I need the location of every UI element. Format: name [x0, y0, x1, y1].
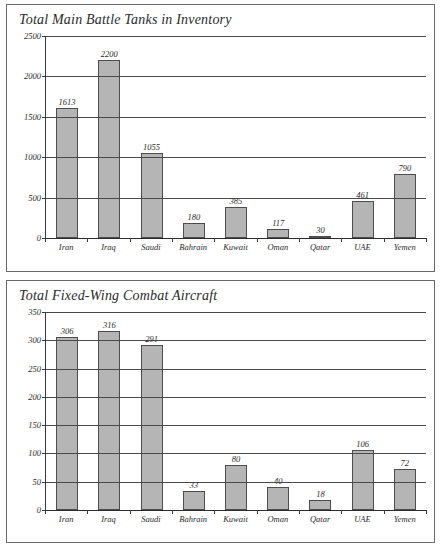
- y-tick-mark: [42, 76, 46, 77]
- gridline: [46, 369, 426, 370]
- bar[interactable]: 316: [98, 331, 120, 510]
- bar[interactable]: 1613: [56, 108, 78, 238]
- x-axis: IranIraqSaudiBahrainKuwaitOmanQatarUAEYe…: [45, 238, 426, 260]
- bar-series: 3063162913380401810672: [46, 312, 426, 510]
- x-tick-mark: [299, 510, 300, 514]
- x-tick-mark: [384, 238, 385, 242]
- bar[interactable]: 18: [309, 500, 331, 510]
- y-tick-mark: [42, 340, 46, 341]
- grid-area: 16132200105518038511730461790: [45, 36, 426, 238]
- gridline: [46, 312, 426, 313]
- x-axis-labels: IranIraqSaudiBahrainKuwaitOmanQatarUAEYe…: [45, 514, 426, 524]
- gridline: [46, 117, 426, 118]
- x-tick-mark: [130, 510, 131, 514]
- gridline: [46, 425, 426, 426]
- x-tick-label: Qatar: [299, 514, 341, 524]
- bar[interactable]: 1055: [141, 153, 163, 238]
- y-tick-mark: [42, 453, 46, 454]
- bar-value-label: 1613: [59, 97, 76, 107]
- bar[interactable]: 385: [225, 207, 247, 238]
- bar-value-label: 106: [356, 439, 369, 449]
- bar-value-label: 790: [398, 163, 411, 173]
- bar[interactable]: 117: [267, 229, 289, 238]
- bar-value-label: 316: [103, 320, 116, 330]
- bar-value-label: 117: [272, 218, 284, 228]
- x-tick-mark: [299, 238, 300, 242]
- y-tick-mark: [42, 369, 46, 370]
- gridline: [46, 340, 426, 341]
- chart-title: Total Fixed-Wing Combat Aircraft: [7, 281, 434, 304]
- x-tick-label: Oman: [257, 242, 299, 252]
- bar[interactable]: 461: [352, 201, 374, 238]
- x-tick-label: Iraq: [87, 514, 129, 524]
- x-tick-label: Yemen: [384, 242, 426, 252]
- y-tick-mark: [42, 198, 46, 199]
- x-tick-label: Kuwait: [214, 514, 256, 524]
- x-tick-mark: [214, 510, 215, 514]
- bar-value-label: 30: [316, 225, 325, 235]
- bar-slot: 30: [299, 36, 341, 238]
- x-tick-label: Kuwait: [214, 242, 256, 252]
- x-tick-label: Iran: [45, 242, 87, 252]
- y-tick-mark: [42, 36, 46, 37]
- x-tick-mark: [426, 238, 427, 242]
- bar[interactable]: 790: [394, 174, 416, 238]
- x-tick-mark: [172, 238, 173, 242]
- plot-area: 05001000150020002500 1613220010551803851…: [15, 36, 426, 260]
- bar-value-label: 180: [187, 212, 200, 222]
- bar[interactable]: 33: [183, 491, 205, 510]
- bar-slot: 316: [88, 312, 130, 510]
- x-tick-mark: [257, 510, 258, 514]
- x-tick-label: Iraq: [87, 242, 129, 252]
- bar-slot: 18: [299, 312, 341, 510]
- gridline: [46, 453, 426, 454]
- gridline: [46, 157, 426, 158]
- x-tick-label: Bahrain: [172, 242, 214, 252]
- y-tick-mark: [42, 482, 46, 483]
- x-axis-line: [45, 238, 426, 239]
- x-tick-label: Bahrain: [172, 514, 214, 524]
- x-tick-label: Iran: [45, 514, 87, 524]
- x-tick-mark: [172, 510, 173, 514]
- x-tick-mark: [384, 510, 385, 514]
- x-tick-label: Saudi: [130, 514, 172, 524]
- bar-slot: 80: [215, 312, 257, 510]
- bar[interactable]: 40: [267, 487, 289, 510]
- bar[interactable]: 72: [394, 469, 416, 510]
- bar-value-label: 306: [61, 326, 74, 336]
- bar-slot: 72: [384, 312, 426, 510]
- gridline: [46, 482, 426, 483]
- x-tick-mark: [257, 238, 258, 242]
- x-tick-label: UAE: [341, 242, 383, 252]
- x-tick-mark: [87, 510, 88, 514]
- bar-slot: 2200: [88, 36, 130, 238]
- bar[interactable]: 80: [225, 465, 247, 510]
- x-tick-mark: [45, 510, 46, 514]
- y-axis: 05001000150020002500: [15, 36, 45, 260]
- x-tick-mark: [341, 238, 342, 242]
- x-tick-mark: [45, 238, 46, 242]
- plot-area-wrapper: 05001000150020002500 1613220010551803851…: [7, 28, 434, 260]
- plot-area-wrapper: 050100150200250300350 306316291338040181…: [7, 304, 434, 532]
- chart-page: Total Main Battle Tanks in Inventory 050…: [0, 0, 441, 545]
- bar-value-label: 2200: [101, 49, 118, 59]
- x-tick-label: Qatar: [299, 242, 341, 252]
- bar[interactable]: 291: [141, 345, 163, 510]
- gridline: [46, 198, 426, 199]
- x-tick-label: Saudi: [130, 242, 172, 252]
- bar-slot: 306: [46, 312, 88, 510]
- bar[interactable]: 2200: [98, 60, 120, 238]
- y-tick-mark: [42, 397, 46, 398]
- y-tick-mark: [42, 425, 46, 426]
- gridline: [46, 76, 426, 77]
- bar-slot: 385: [215, 36, 257, 238]
- chart-panel-fixed-wing-aircraft: Total Fixed-Wing Combat Aircraft 0501001…: [6, 280, 435, 543]
- y-tick-mark: [42, 312, 46, 313]
- x-tick-mark: [214, 238, 215, 242]
- bar[interactable]: 106: [352, 450, 374, 510]
- x-tick-mark: [130, 238, 131, 242]
- bar[interactable]: 306: [56, 337, 78, 510]
- x-axis: IranIraqSaudiBahrainKuwaitOmanQatarUAEYe…: [45, 510, 426, 532]
- bar[interactable]: 180: [183, 223, 205, 238]
- y-tick-mark: [42, 117, 46, 118]
